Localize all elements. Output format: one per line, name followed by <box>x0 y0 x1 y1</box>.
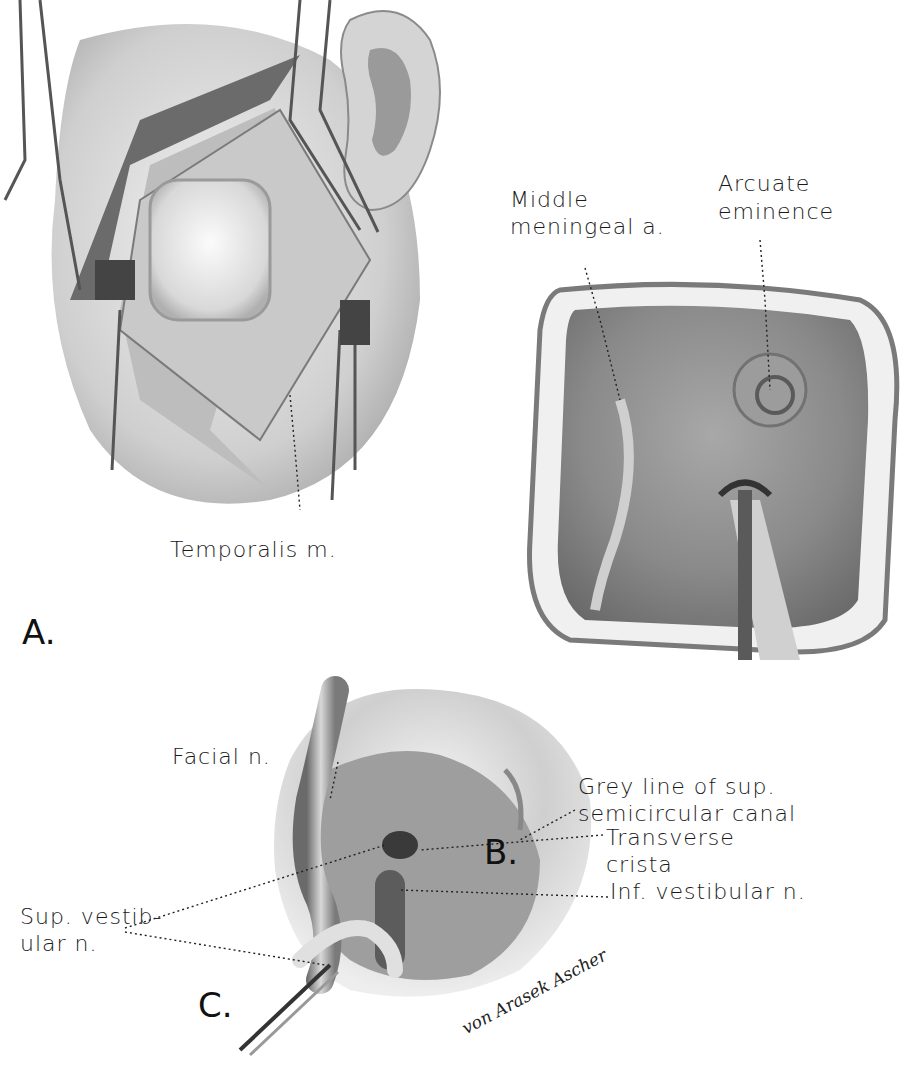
label-sup-vestibular-line2: ular n. <box>20 932 98 955</box>
label-sup-vestibular-line1: Sup. vestib- <box>20 905 163 928</box>
figure-c-letter: C. <box>198 985 233 1025</box>
label-transverse-crista-line2: crista <box>606 853 673 876</box>
label-facial-nerve: Facial n. <box>172 745 271 768</box>
figure-b-letter: B. <box>484 832 518 872</box>
figure-a-letter: A. <box>22 612 55 652</box>
label-transverse-crista-line1: Transverse <box>606 826 735 849</box>
figure-a-artwork <box>5 0 440 510</box>
figure-b-artwork <box>530 240 897 660</box>
label-arcuate-line1: Arcuate <box>718 172 810 195</box>
label-arcuate-line2: eminence <box>718 200 834 223</box>
label-grey-line-line1: Grey line of sup. <box>578 775 775 798</box>
label-middle-meningeal-line1: Middle <box>510 188 589 211</box>
label-inf-vestibular-nerve: Inf. vestibular n. <box>610 880 806 903</box>
label-grey-line-line2: semicircular canal <box>578 802 796 825</box>
surgical-illustration: A. B. C. Temporalis m. Middle meningeal … <box>0 0 904 1068</box>
label-middle-meningeal-line2: meningeal a. <box>510 215 665 238</box>
label-temporalis-muscle: Temporalis m. <box>170 538 337 561</box>
